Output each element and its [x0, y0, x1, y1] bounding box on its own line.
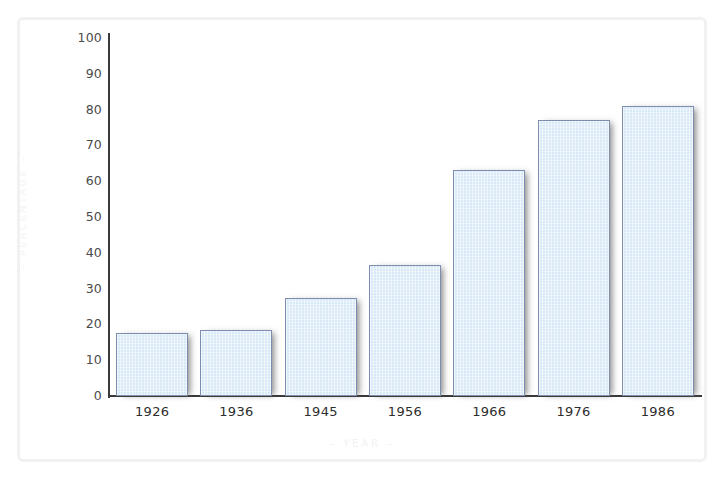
- bar-column[interactable]: [369, 265, 441, 396]
- bar-column[interactable]: [622, 106, 694, 396]
- x-tick-label: 1926: [110, 404, 194, 419]
- y-tick-label: 20: [60, 318, 102, 331]
- x-tick-label: 1966: [447, 404, 531, 419]
- y-tick-label: 70: [60, 139, 102, 152]
- y-tick-label: 90: [60, 68, 102, 81]
- bar-1926[interactable]: [116, 333, 188, 396]
- x-tick-label: 1936: [194, 404, 278, 419]
- y-tick-label: 30: [60, 282, 102, 295]
- x-axis-title: – YEAR –: [0, 438, 724, 449]
- bar-1936[interactable]: [200, 330, 272, 396]
- y-axis-title: – PERCENTAGE –: [17, 155, 28, 269]
- bar-1986[interactable]: [622, 106, 694, 396]
- x-tick-label: 1986: [616, 404, 700, 419]
- x-tick-label: 1956: [363, 404, 447, 419]
- bar-column[interactable]: [200, 330, 272, 396]
- x-tick-label: 1976: [531, 404, 615, 419]
- x-tick-label: 1945: [279, 404, 363, 419]
- y-tick-label: 60: [60, 175, 102, 188]
- bar-column[interactable]: [453, 170, 525, 396]
- y-tick-label: 80: [60, 103, 102, 116]
- bar-1956[interactable]: [369, 265, 441, 396]
- chart-page: – PERCENTAGE – 1009080706050403020100 – …: [0, 0, 724, 489]
- y-tick-label: 0: [60, 390, 102, 403]
- bar-column[interactable]: [285, 298, 357, 396]
- y-tick-label: 50: [60, 211, 102, 224]
- y-tick-label: 10: [60, 354, 102, 367]
- bar-1966[interactable]: [453, 170, 525, 396]
- y-tick-label: 100: [60, 32, 102, 45]
- y-tick-label: 40: [60, 247, 102, 260]
- bar-1945[interactable]: [285, 298, 357, 396]
- bar-column[interactable]: [116, 333, 188, 396]
- bar-column[interactable]: [538, 120, 610, 396]
- bar-1976[interactable]: [538, 120, 610, 396]
- y-axis-tick-labels: 1009080706050403020100: [56, 0, 102, 489]
